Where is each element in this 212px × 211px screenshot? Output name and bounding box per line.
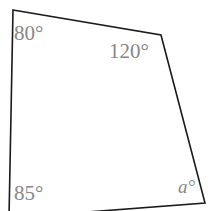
angle-label-top-right: 120° [109, 41, 149, 62]
angle-label-unknown: a° [178, 177, 195, 196]
angle-label-top-left: 80° [14, 23, 43, 44]
geometry-figure: 80° 120° 85° a° [0, 0, 212, 211]
angle-label-bottom-left: 85° [14, 183, 43, 204]
